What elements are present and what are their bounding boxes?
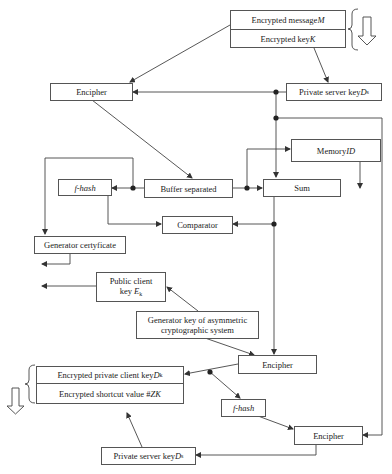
node-var: ZK (150, 389, 160, 399)
node-subscript: s (181, 451, 183, 461)
node-label-line1: Public client (110, 276, 153, 286)
edge-encipher-3-to-server-key-2 (196, 444, 316, 455)
junction-dot (244, 185, 249, 190)
edge-buffer-to-generator-certificate (45, 158, 133, 234)
node-label-line1: Generator key of asymmetric (148, 315, 247, 325)
node-generator-key: Generator key of asymmetric cryptographi… (136, 311, 259, 339)
down-arrow-icon (7, 388, 24, 414)
edge-fhash-to-comparator (108, 195, 161, 224)
node-var: M (317, 15, 324, 25)
junction-dot (271, 221, 276, 226)
node-label: Buffer separated (160, 184, 216, 194)
node-public-client-key: Public client key Ek (96, 272, 166, 302)
edge-fhash-2-to-encipher-3 (258, 416, 293, 429)
brace-bottom-icon (25, 365, 35, 403)
node-encipher-2: Encipher (238, 355, 317, 374)
node-f-hash-2: f-hash (221, 399, 266, 417)
node-label: f-hash (233, 403, 254, 413)
node-private-server-key-1: Private server key Ds (286, 83, 382, 101)
node-label: Encrypted key (261, 34, 310, 44)
edge-generator-to-encipher-2 (205, 338, 254, 355)
node-subscript: s (367, 87, 369, 97)
edge-server-key-2-to-shortcut (127, 413, 142, 447)
node-label-line2: key (120, 286, 134, 296)
node-label: Comparator (177, 220, 218, 230)
node-var: K (310, 34, 316, 44)
junction-dot (273, 89, 278, 94)
node-label: Encrypted shortcut value # (59, 389, 150, 399)
node-encrypted-key: Encrypted key K (230, 29, 346, 48)
node-comparator: Comparator (162, 216, 233, 234)
node-var: ID (346, 146, 355, 156)
node-label: Generator certyficate (44, 240, 116, 250)
node-label: Encrypted message (252, 15, 318, 25)
junction-dot (130, 185, 135, 190)
node-encipher-1: Encipher (50, 83, 133, 101)
node-encipher-3: Encipher (294, 426, 363, 445)
node-label-line2: cryptographic system (161, 325, 234, 335)
node-label: Memory (317, 146, 346, 156)
node-generator-certificate: Generator certyficate (34, 236, 126, 254)
node-encrypted-message: Encrypted message M (230, 10, 346, 30)
brace-top-icon (348, 9, 358, 50)
junction-dot (273, 115, 278, 120)
node-buffer-separated: Buffer separated (144, 179, 233, 198)
node-encrypted-private-client-key: Encrypted private client key Dk (36, 366, 184, 384)
node-label: Private server key (114, 451, 175, 461)
node-label: Sum (294, 183, 310, 193)
node-f-hash-1: f-hash (58, 179, 112, 196)
node-label: Encipher (76, 87, 107, 97)
node-label: Encipher (262, 360, 293, 370)
node-subscript: k (160, 370, 163, 380)
node-label: Encipher (313, 431, 344, 441)
edge-certificate-output (42, 253, 70, 264)
edge-rail-to-encipher-3 (276, 118, 382, 435)
edge-generator-to-public-key (167, 287, 198, 311)
edge-encipher-2-to-fhash-2 (210, 372, 240, 398)
edge-key-to-private-server-key (314, 48, 328, 82)
node-private-server-key-2: Private server key Ds (101, 447, 196, 465)
edge-encipher-to-buffer (92, 100, 192, 178)
node-encrypted-shortcut-value: Encrypted shortcut value #ZK (36, 383, 184, 404)
node-label: f-hash (74, 183, 95, 193)
node-memory-id: Memory ID (291, 139, 381, 162)
node-subscript: k (139, 291, 142, 297)
node-label: Encrypted private client key (57, 370, 153, 380)
node-sum: Sum (263, 179, 341, 197)
edge-message-to-encipher (130, 25, 230, 82)
node-label: Private server key (299, 87, 360, 97)
junction-dot (207, 369, 212, 374)
down-arrow-icon (358, 17, 376, 45)
